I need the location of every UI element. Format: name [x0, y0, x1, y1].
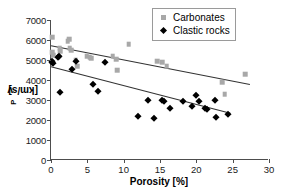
y-axis-tick	[47, 20, 51, 21]
x-axis-tick-label: 20	[191, 164, 202, 175]
data-point-square	[155, 59, 160, 64]
y-axis-tick-label: 5000	[26, 55, 46, 66]
legend-marker-diamond-icon	[157, 28, 169, 33]
x-axis-tick-label: 5	[85, 164, 90, 175]
data-point-square	[50, 35, 55, 40]
x-axis-tick	[87, 159, 88, 163]
y-axis-tick-label: 3000	[26, 95, 46, 106]
x-axis-tick-label: 10	[118, 164, 129, 175]
y-axis-tick-label: 1000	[26, 135, 46, 146]
y-axis-tick	[47, 40, 51, 41]
x-axis-tick	[196, 159, 197, 163]
diamond-icon	[159, 27, 166, 34]
x-axis-tick	[160, 159, 161, 163]
x-axis-tick-label: 25	[227, 164, 238, 175]
data-point-square	[114, 57, 119, 62]
data-point-square	[126, 42, 131, 47]
y-axis-tick	[47, 60, 51, 61]
y-axis-tick-label: 7000	[26, 15, 46, 26]
data-point-square	[67, 37, 72, 42]
chart-legend: CarbonatesClastic rocks	[152, 8, 236, 41]
legend-item: Clastic rocks	[157, 24, 230, 37]
plot-area: 0100020003000400050006000700005101520253…	[50, 20, 268, 160]
legend-item-label: Carbonates	[173, 11, 225, 24]
x-axis-tick	[269, 159, 270, 163]
data-point-square	[69, 48, 74, 53]
y-axis-tick-label: 6000	[26, 35, 46, 46]
x-axis-tick	[51, 159, 52, 163]
legend-marker-square-icon	[157, 15, 169, 20]
x-axis-tick-label: 30	[264, 164, 275, 175]
scatter-plot-figure: vP [km/s] 010002000300040005000600070000…	[0, 0, 285, 193]
x-axis-title: Porosity [%]	[50, 176, 268, 187]
x-axis-tick	[233, 159, 234, 163]
data-point-square	[89, 56, 94, 61]
y-axis-tick	[47, 100, 51, 101]
data-point-square	[243, 72, 248, 77]
data-point-square	[115, 68, 120, 73]
x-axis-tick-label: 0	[48, 164, 53, 175]
y-axis-tick	[47, 80, 51, 81]
y-axis-tick-label: 4000	[26, 75, 46, 86]
y-axis-tick-label: 0	[41, 155, 46, 166]
x-axis-tick	[124, 159, 125, 163]
legend-item-label: Clastic rocks	[173, 24, 230, 37]
legend-item: Carbonates	[157, 11, 230, 24]
data-point-square	[222, 92, 227, 97]
y-axis-tick	[47, 140, 51, 141]
data-point-square	[220, 80, 225, 85]
x-axis-tick-label: 15	[155, 164, 166, 175]
square-icon	[161, 15, 166, 20]
data-point-square	[164, 64, 169, 69]
y-axis-title: vP [km/s]	[3, 20, 19, 160]
y-axis-tick-label: 2000	[26, 115, 46, 126]
y-axis-title-sub: P	[9, 100, 18, 105]
y-axis-tick	[47, 120, 51, 121]
